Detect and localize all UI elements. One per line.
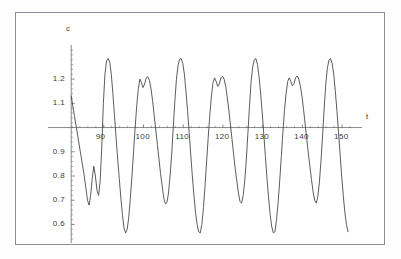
x-tick-label-120: 120 — [215, 132, 230, 141]
axes-group — [48, 45, 362, 243]
figure-root: 901001101201301401501.21.10.90.80.70.6 c… — [0, 0, 401, 259]
data-curve-line — [71, 58, 348, 232]
x-tick-label-100: 100 — [135, 132, 150, 141]
y-axis-title: c — [66, 24, 70, 33]
x-tick-label-140: 140 — [294, 132, 309, 141]
x-tick-label-90: 90 — [96, 132, 106, 141]
tick-marks — [71, 50, 350, 239]
x-tick-label-150: 150 — [334, 132, 349, 141]
y-tick-label-1.1: 1.1 — [43, 98, 65, 107]
y-tick-label-1.2: 1.2 — [43, 74, 65, 83]
y-tick-label-0.8: 0.8 — [43, 171, 65, 180]
y-tick-label-0.7: 0.7 — [43, 195, 65, 204]
y-tick-label-0.9: 0.9 — [43, 147, 65, 156]
x-tick-label-110: 110 — [175, 132, 189, 141]
x-tick-label-130: 130 — [255, 132, 270, 141]
y-tick-label-0.6: 0.6 — [43, 219, 65, 228]
x-axis-title: t — [366, 112, 369, 121]
